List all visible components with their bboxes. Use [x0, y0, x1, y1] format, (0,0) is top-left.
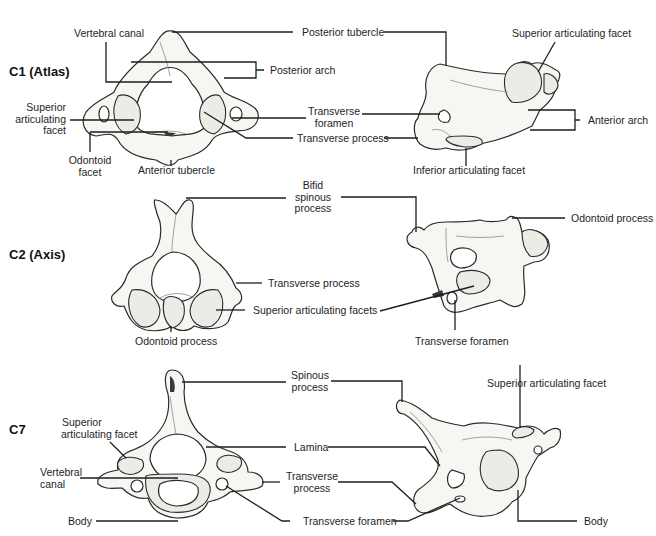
label-line: Spinous	[288, 370, 332, 382]
vertebrae-illustration	[0, 0, 656, 536]
label-c2-transverse-foramen: Transverse foramen	[415, 336, 509, 348]
label-c7-vertebral-canal: Vertebral canal	[40, 467, 82, 490]
label-line: facet	[14, 125, 66, 137]
label-line: Bifid	[286, 180, 340, 192]
row-title-c7: C7	[9, 422, 26, 437]
c2-superior-view	[112, 200, 242, 331]
c7-superior-view	[98, 370, 263, 518]
label-line: Transverse	[284, 471, 340, 483]
c1-lateral-view	[414, 62, 559, 150]
label-c1-posterior-tubercle: Posterior tubercle	[302, 27, 384, 39]
label-c7-transverse-foramen: Transverse foramen	[303, 516, 397, 528]
label-c7-spinous-process: Spinous process	[288, 370, 332, 393]
label-c1-superior-articulating-facet: Superior articulating facet	[14, 102, 66, 137]
label-c2-bifid-spinous-process: Bifid spinous process	[286, 180, 340, 215]
label-line: articulating facet	[61, 429, 137, 441]
label-c1-anterior-tubercle: Anterior tubercle	[138, 165, 215, 177]
label-c7-transverse-process: Transverse process	[284, 471, 340, 494]
label-c1-odontoid-facet: Odontoid facet	[66, 155, 114, 178]
label-c2-odontoid-process-bottom: Odontoid process	[135, 336, 217, 348]
label-c7-lateral-body: Body	[584, 516, 608, 528]
label-c7-superior-articulating-facet: Superior articulating facet	[61, 417, 137, 440]
c7-lateral-view	[397, 400, 561, 516]
label-c1-lateral-superior-articulating-facet: Superior articulating facet	[512, 28, 631, 40]
label-c7-lamina: Lamina	[294, 442, 328, 454]
label-c2-superior-articulating-facets: Superior articulating facets	[253, 305, 377, 317]
label-c7-lateral-superior-articulating-facet: Superior articulating facet	[487, 378, 606, 390]
label-c1-transverse-process: Transverse process	[297, 133, 389, 145]
label-c1-anterior-arch: Anterior arch	[588, 115, 648, 127]
label-c1-posterior-arch: Posterior arch	[270, 65, 335, 77]
c1-superior-view	[83, 31, 258, 165]
label-line: Transverse	[306, 106, 362, 118]
label-line: Vertebral	[40, 467, 82, 479]
label-line: Superior	[14, 102, 66, 114]
label-c2-odontoid-process: Odontoid process	[571, 213, 653, 225]
label-c1-inferior-articulating-facet: Inferior articulating facet	[413, 165, 525, 177]
label-c1-vertebral-canal: Vertebral canal	[74, 28, 144, 40]
label-c7-body: Body	[68, 516, 92, 528]
label-line: Odontoid	[66, 155, 114, 167]
label-line: process	[288, 382, 332, 394]
label-line: facet	[66, 167, 114, 179]
label-line: Superior	[61, 417, 137, 429]
label-line: canal	[40, 479, 82, 491]
label-line: foramen	[306, 118, 362, 130]
label-c1-transverse-foramen: Transverse foramen	[306, 106, 362, 129]
row-title-c1: C1 (Atlas)	[9, 64, 70, 79]
label-line: process	[286, 203, 340, 215]
row-title-c2: C2 (Axis)	[9, 247, 65, 262]
label-c2-transverse-process: Transverse process	[268, 278, 360, 290]
label-line: process	[284, 483, 340, 495]
